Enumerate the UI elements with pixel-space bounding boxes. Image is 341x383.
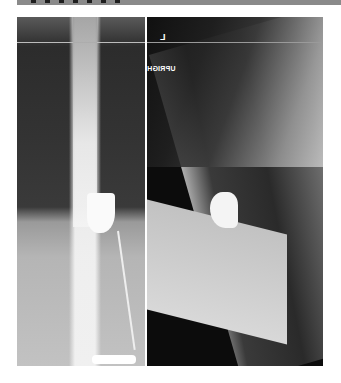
xray-frontal-view xyxy=(17,17,145,366)
scan-line xyxy=(147,42,323,43)
barium-bolus xyxy=(87,193,115,233)
top-strip xyxy=(17,0,341,5)
xray-lateral-view: L UPRIGH xyxy=(147,17,323,366)
side-marker-label: L xyxy=(160,32,166,42)
contrast-trail xyxy=(117,231,136,350)
strip-markers xyxy=(31,0,120,3)
barium-bolus xyxy=(210,192,238,228)
barium-pool xyxy=(92,355,136,364)
thorax-region xyxy=(147,17,323,167)
position-marker-label: UPRIGH xyxy=(147,65,175,72)
